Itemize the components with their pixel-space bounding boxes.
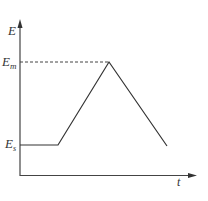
energy-curve	[20, 62, 167, 146]
y-axis-arrow-icon	[18, 19, 23, 28]
es-label: Es	[4, 136, 16, 153]
energy-diagram: E t Em Es	[0, 0, 208, 201]
em-label: Em	[1, 54, 17, 71]
x-axis-arrow-icon	[188, 173, 197, 178]
y-axis-label: E	[7, 23, 16, 38]
x-axis-label: t	[177, 175, 181, 189]
